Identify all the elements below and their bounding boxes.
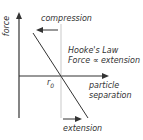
- equilibrium-label: r0: [47, 79, 54, 89]
- y-axis-label: force: [3, 16, 11, 36]
- x-axis-arrow-icon: [102, 73, 109, 79]
- y-axis-arrow-icon: [16, 12, 22, 19]
- extension-arrow-icon: [75, 116, 82, 122]
- x-axis-label-line1: particle: [89, 82, 119, 90]
- equilibrium-subscript: 0: [50, 82, 54, 89]
- law-title: Hooke's Law: [68, 47, 118, 55]
- law-formula: Force ∝ extension: [68, 57, 140, 65]
- x-axis-label-line2: separation: [89, 92, 132, 100]
- compression-arrow-icon: [36, 27, 43, 33]
- compression-label: compression: [41, 15, 92, 23]
- extension-label: extension: [63, 125, 102, 133]
